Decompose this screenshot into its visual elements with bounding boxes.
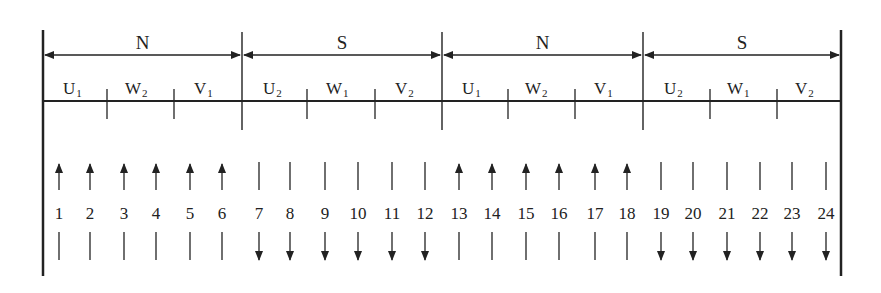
phase-label: U1: [462, 79, 481, 99]
phase-label: V2: [795, 79, 814, 99]
slot-conductors: 123456789101112131415161718192021222324: [55, 162, 835, 260]
slot: 10: [350, 162, 367, 260]
slot: 5: [186, 164, 195, 260]
slot-number: 7: [255, 204, 264, 223]
phase-label: U2: [263, 79, 282, 99]
pole-span: S: [244, 32, 440, 55]
slot: 19: [653, 162, 670, 260]
slot-number: 19: [653, 204, 670, 223]
slot: 15: [518, 164, 535, 260]
pole-span: S: [645, 32, 839, 55]
slot: 18: [619, 164, 636, 260]
slot-number: 2: [86, 204, 95, 223]
pole-span: N: [45, 32, 240, 55]
slot: 21: [719, 162, 736, 260]
slot-number: 23: [784, 204, 801, 223]
slot-number: 8: [286, 204, 295, 223]
phase-label: V1: [594, 79, 613, 99]
slot: 4: [152, 164, 161, 260]
slot-number: 6: [218, 204, 227, 223]
slot-number: 4: [152, 204, 161, 223]
slot-number: 16: [551, 204, 568, 223]
phase-label: U2: [664, 79, 683, 99]
slot-number: 20: [685, 204, 702, 223]
pole-label: N: [136, 32, 150, 53]
phase-label: W2: [525, 79, 548, 99]
pole-dividers: [242, 32, 643, 130]
phase-label: W1: [727, 79, 750, 99]
slot: 7: [255, 162, 264, 260]
slot-number: 14: [484, 204, 502, 223]
slot-number: 13: [451, 204, 468, 223]
slot: 6: [218, 164, 227, 260]
winding-diagram: NSNS U1W2V1U2W1V2U1W2V1U2W1V2 1234567891…: [0, 0, 881, 293]
slot-number: 1: [55, 204, 64, 223]
slot: 13: [451, 164, 468, 260]
slot: 11: [384, 162, 400, 260]
winding-diagram-svg: NSNS U1W2V1U2W1V2U1W2V1U2W1V2 1234567891…: [0, 0, 881, 293]
slot-number: 3: [120, 204, 129, 223]
slot-number: 5: [186, 204, 195, 223]
slot: 23: [784, 162, 801, 260]
pole-label: S: [737, 32, 748, 53]
phase-groups: U1W2V1U2W1V2U1W2V1U2W1V2: [63, 79, 814, 99]
slot: 8: [286, 162, 295, 260]
phase-label: W1: [326, 79, 349, 99]
slot-number: 18: [619, 204, 636, 223]
slot: 24: [818, 162, 836, 260]
slot: 22: [752, 162, 769, 260]
slot: 20: [685, 162, 702, 260]
slot: 17: [587, 164, 605, 260]
pole-label: N: [536, 32, 550, 53]
slot-number: 22: [752, 204, 769, 223]
pole-span: N: [444, 32, 641, 55]
phase-label: W2: [125, 79, 148, 99]
pole-label: S: [337, 32, 348, 53]
slot: 16: [551, 164, 568, 260]
slot-number: 9: [321, 204, 330, 223]
slot-number: 10: [350, 204, 367, 223]
slot-number: 11: [384, 204, 400, 223]
phase-label: U1: [63, 79, 82, 99]
slot-number: 12: [417, 204, 434, 223]
slot: 3: [120, 164, 129, 260]
slot: 14: [484, 164, 502, 260]
slot-number: 24: [818, 204, 836, 223]
slot: 9: [321, 162, 330, 260]
slot: 1: [55, 164, 64, 260]
slot: 2: [86, 164, 95, 260]
slot-number: 21: [719, 204, 736, 223]
slot-number: 17: [587, 204, 605, 223]
slot-number: 15: [518, 204, 535, 223]
slot: 12: [417, 162, 434, 260]
phase-label: V1: [194, 79, 213, 99]
phase-label: V2: [395, 79, 414, 99]
